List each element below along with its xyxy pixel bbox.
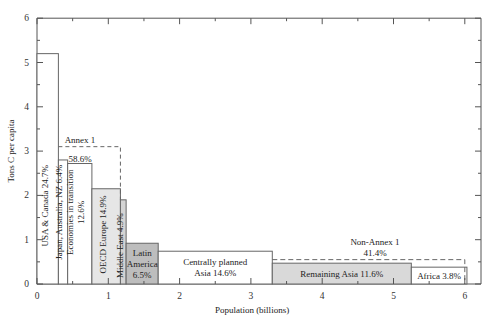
region-label: USA & Canada 24.7% [40, 164, 50, 246]
y-axis-title: Tons C per capita [6, 119, 16, 182]
nonannex1-share: 41.4% [363, 248, 387, 258]
region-label: 6.5% [133, 270, 152, 280]
y-tick-label: 5 [24, 58, 29, 68]
region-label: Remaining Asia 11.6% [300, 269, 383, 279]
x-tick-label: 2 [177, 291, 182, 301]
y-tick-label: 2 [24, 190, 29, 200]
x-tick-label: 5 [391, 291, 396, 301]
region-label: Asia 14.6% [194, 268, 236, 278]
y-tick-label: 3 [24, 146, 29, 156]
x-tick-label: 4 [320, 291, 325, 301]
region-label: Africa 3.8% [417, 271, 461, 281]
y-tick-label: 0 [24, 279, 29, 289]
y-tick-label: 1 [24, 235, 29, 245]
x-axis-title: Population (billions) [215, 305, 289, 315]
region-label: Economies in transition [65, 169, 75, 255]
annex1-share: 58.6% [68, 154, 92, 164]
region-label: Japan, Australia, NZ 6.4% [54, 164, 64, 259]
region-label: Centrally planned [183, 257, 248, 267]
region-label: Latin [133, 248, 152, 258]
x-tick-label: 6 [462, 291, 467, 301]
per-capita-emissions-chart: 01234560123456 USA & Canada 24.7%Japan, … [0, 0, 494, 328]
annex1-title: Annex 1 [65, 135, 96, 145]
region-label: OECD Europe 14.9% [98, 195, 108, 274]
x-tick-label: 0 [35, 291, 40, 301]
region-label: 12.6% [76, 200, 86, 224]
y-tick-label: 6 [24, 13, 29, 23]
region-label: Middle East 4.9% [115, 213, 125, 278]
x-tick-label: 3 [249, 291, 254, 301]
nonannex1-title: Non-Annex 1 [350, 237, 399, 247]
region-label: America [127, 259, 158, 269]
x-tick-label: 1 [106, 291, 111, 301]
y-tick-label: 4 [24, 102, 29, 112]
